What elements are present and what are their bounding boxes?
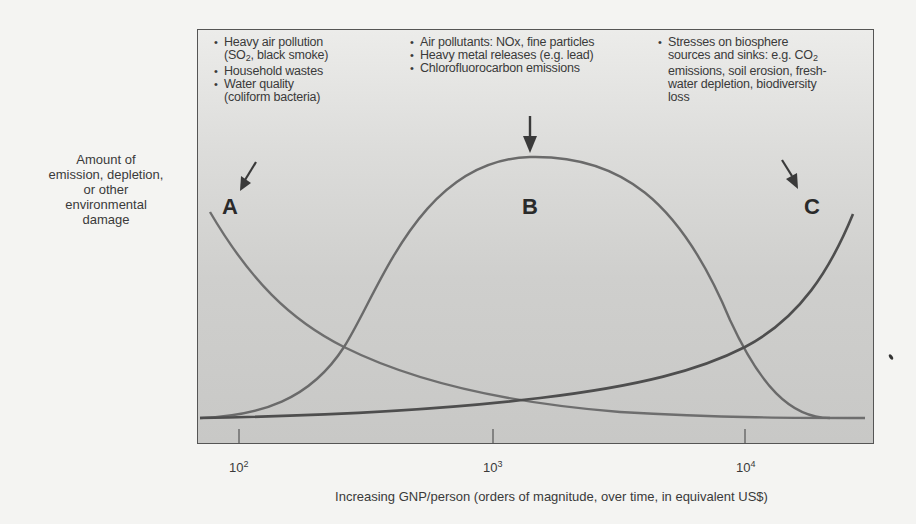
annotation-text: Water quality [224,77,294,91]
annotation-a: Heavy air pollution (SO2, black smoke) H… [214,36,328,104]
annotation-text: , black smoke) [250,48,328,62]
tick-exponent: 4 [750,459,755,469]
annotation-text: sources and sinks: e.g. CO [668,48,813,62]
y-axis-label-line: damage [36,212,176,227]
annotation-item: Water quality (coliform bacteria) [214,78,328,104]
tick-exponent: 2 [243,459,248,469]
annotation-text: (coliform bacteria) [224,90,320,104]
annotation-c: Stresses on biosphere sources and sinks:… [658,36,826,104]
tick-base: 10 [483,460,497,475]
y-axis-label-line: or other [36,182,176,197]
annotation-item: Chlorofluorocarbon emissions [410,62,594,75]
y-axis-label-line: environmental [36,197,176,212]
x-tick-label-10000: 104 [736,459,755,475]
annotation-text: loss [668,90,689,104]
x-tick-label-1000: 103 [483,459,502,475]
curve-label-a: A [222,194,238,220]
annotation-text: Heavy air pollution [224,35,323,49]
tick-base: 10 [736,460,750,475]
x-tick-label-100: 102 [229,459,248,475]
print-speck [888,354,894,361]
x-axis-label: Increasing GNP/person (orders of magnitu… [289,489,814,504]
curve-label-c: C [804,194,820,220]
curve-label-b: B [522,194,538,220]
annotation-item: Stresses on biosphere sources and sinks:… [658,36,826,104]
annotation-text: emissions, soil erosion, fresh- [668,64,826,78]
annotation-text: (SO [224,48,246,62]
annotation-b: Air pollutants: NOx, fine particles Heav… [410,36,594,75]
annotation-item: Heavy air pollution (SO2, black smoke) [214,36,328,65]
tick-exponent: 3 [497,459,502,469]
y-axis-label-line: Amount of [36,152,176,167]
tick-base: 10 [229,460,243,475]
annotation-text: water depletion, biodiversity [668,77,816,91]
y-axis-label-line: emission, depletion, [36,167,176,182]
figure: Amount of emission, depletion, or other … [0,0,916,524]
y-axis-label: Amount of emission, depletion, or other … [36,152,176,227]
annotation-text: Stresses on biosphere [668,35,788,49]
subscript: 2 [813,53,818,63]
